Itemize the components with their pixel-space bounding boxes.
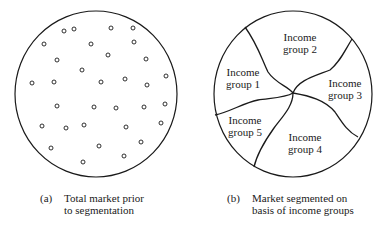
consumer-dot (122, 154, 126, 158)
consumer-dot (131, 26, 135, 30)
consumer-dot (82, 123, 86, 127)
consumer-dots (30, 26, 168, 164)
segment-label-line: group 3 (315, 89, 375, 101)
segment-label-line: Income (270, 31, 330, 43)
consumer-dot (159, 121, 163, 125)
segment-label-income-group-4: Income group 4 (275, 131, 335, 155)
consumer-dot (81, 160, 85, 164)
total-market-circle (15, 11, 177, 177)
consumer-dot (62, 29, 66, 33)
consumer-dot (72, 27, 76, 31)
caption-line-2: basis of income groups (252, 205, 354, 217)
segment-label-line: group 4 (275, 143, 335, 155)
consumer-dot (109, 26, 113, 30)
segment-label-income-group-5: Income group 5 (215, 114, 275, 138)
consumer-dot (97, 144, 101, 148)
segment-label-line: Income (215, 114, 275, 126)
segment-label-line: Income (213, 66, 273, 78)
consumer-dot (42, 42, 46, 46)
segment-label-line: Income (315, 77, 375, 89)
consumer-dot (163, 102, 167, 106)
segment-label-line: group 1 (213, 78, 273, 90)
caption-tag: (a) (40, 193, 52, 205)
consumer-dot (92, 105, 96, 109)
segment-label-income-group-1: Income group 1 (213, 66, 273, 90)
consumer-dot (144, 57, 148, 61)
consumer-dot (89, 42, 93, 46)
consumer-dot (99, 80, 103, 84)
consumer-dot (49, 146, 53, 150)
caption-panel-b: (b) Market segmented on basis of income … (227, 193, 377, 217)
consumer-dot (55, 104, 59, 108)
consumer-dot (40, 124, 44, 128)
consumer-dot (145, 83, 149, 87)
boundary-1-5 (215, 93, 293, 115)
consumer-dot (139, 140, 143, 144)
consumer-dot (30, 81, 34, 85)
caption-line-2: to segmentation (64, 205, 134, 217)
segment-label-income-group-2: Income group 2 (270, 31, 330, 55)
consumer-dot (106, 53, 110, 57)
consumer-dot (114, 106, 118, 110)
caption-line-1: Total market prior (64, 193, 144, 205)
consumer-dot (132, 40, 136, 44)
consumer-dot (80, 68, 84, 72)
consumer-dot (142, 105, 146, 109)
consumer-dot (55, 58, 59, 62)
consumer-dot (64, 126, 68, 130)
caption-tag: (b) (227, 193, 240, 205)
caption-panel-a: (a) Total market prior to segmentation (40, 193, 180, 217)
segment-label-line: group 5 (215, 126, 275, 138)
segment-label-line: Income (275, 131, 335, 143)
consumer-dot (52, 80, 56, 84)
caption-line-1: Market segmented on (252, 193, 347, 205)
segment-label-income-group-3: Income group 3 (315, 77, 375, 101)
consumer-dot (164, 74, 168, 78)
consumer-dot (123, 77, 127, 81)
segment-label-line: group 2 (270, 43, 330, 55)
consumer-dot (124, 125, 128, 129)
